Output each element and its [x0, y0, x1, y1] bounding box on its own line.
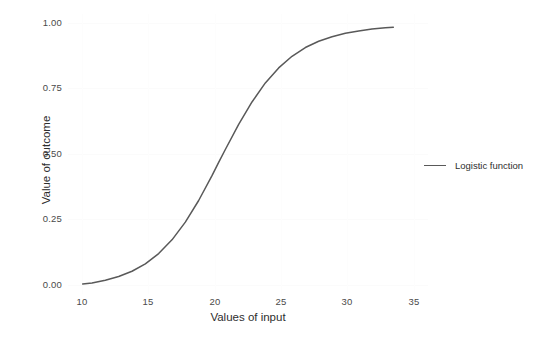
x-axis-ticks: 10 15 20 25 30 35	[68, 296, 428, 310]
x-tick-label: 20	[195, 296, 235, 307]
x-tick-label: 35	[394, 296, 434, 307]
legend-line-icon	[424, 165, 446, 166]
x-axis-title: Values of input	[68, 311, 428, 323]
chart-figure: 1.00 0.75 0.50 0.25 0.00 Value of outcom…	[0, 0, 548, 343]
chart-legend: Logistic function	[424, 160, 523, 171]
y-axis-title: Value of outcome	[40, 80, 52, 240]
plot-area	[68, 14, 428, 294]
x-tick-label: 30	[327, 296, 367, 307]
logistic-curve-svg	[68, 14, 428, 294]
x-tick-label: 10	[62, 296, 102, 307]
y-axis-title-holder: Value of outcome	[22, 14, 36, 294]
logistic-curve-path	[83, 27, 394, 284]
legend-entry-label: Logistic function	[455, 160, 523, 171]
x-tick-label: 25	[261, 296, 301, 307]
x-tick-label: 15	[128, 296, 168, 307]
